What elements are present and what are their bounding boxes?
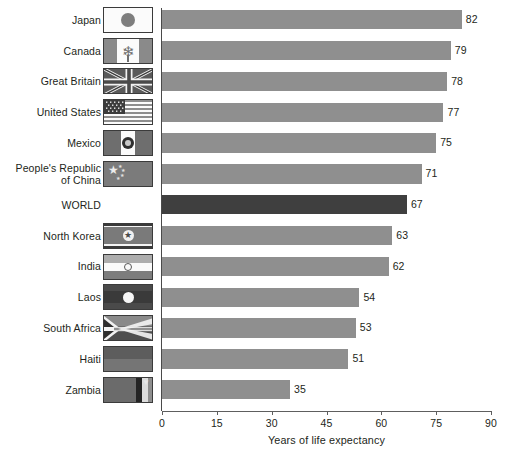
category-label: WORLD bbox=[0, 190, 101, 221]
united-states-flag bbox=[103, 99, 153, 125]
chart-row: Mexico 75 bbox=[0, 128, 508, 159]
south-africa-flag bbox=[103, 315, 153, 341]
chart-row: People's Republicof China ★ ★ ★ ★ ★71 bbox=[0, 159, 508, 190]
category-label-line: WORLD bbox=[61, 199, 101, 211]
category-label: Mexico bbox=[0, 128, 101, 159]
category-label-line: United States bbox=[37, 106, 101, 118]
bar-value-label: 63 bbox=[396, 226, 408, 245]
chart-row: South Africa 53 bbox=[0, 313, 508, 344]
category-label: North Korea bbox=[0, 220, 101, 251]
x-axis-tick-label: 0 bbox=[142, 417, 182, 430]
category-label-line: Japan bbox=[72, 14, 101, 26]
category-label-line: Zambia bbox=[65, 384, 101, 396]
japan-sun bbox=[121, 13, 135, 27]
bar-value-label: 53 bbox=[360, 318, 372, 337]
japan-flag bbox=[103, 7, 153, 33]
category-label-line: South Africa bbox=[43, 322, 101, 334]
mexico-flag bbox=[103, 130, 153, 156]
category-label: South Africa bbox=[0, 313, 101, 344]
bar-value-label: 77 bbox=[447, 103, 459, 122]
zambia-eagle: ▼ bbox=[142, 379, 150, 387]
category-label-line: Mexico bbox=[67, 137, 101, 149]
category-label-line: North Korea bbox=[43, 230, 101, 242]
category-label: Canada bbox=[0, 35, 101, 66]
great-britain-flag bbox=[103, 68, 153, 94]
india-ashoka-chakra bbox=[124, 263, 132, 271]
zambia-flag: ▼ bbox=[103, 377, 153, 403]
chart-row: WORLD67 bbox=[0, 190, 508, 221]
x-axis-tick bbox=[381, 411, 382, 415]
bar bbox=[162, 380, 290, 399]
chart-row: Great Britain 78 bbox=[0, 66, 508, 97]
chart-row: United States bbox=[0, 97, 508, 128]
bar bbox=[162, 41, 451, 60]
haiti-flag bbox=[103, 346, 153, 372]
bar bbox=[162, 195, 407, 214]
x-axis-tick-label: 60 bbox=[361, 417, 401, 430]
chart-row: Japan 82 bbox=[0, 4, 508, 35]
bar-value-label: 62 bbox=[393, 257, 405, 276]
x-axis-tick-label: 15 bbox=[197, 417, 237, 430]
x-axis-tick bbox=[272, 411, 273, 415]
x-axis-tick bbox=[436, 411, 437, 415]
bar bbox=[162, 257, 389, 276]
chart-row: Zambia ▼35 bbox=[0, 375, 508, 406]
x-axis-tick-label: 30 bbox=[252, 417, 292, 430]
category-label: Great Britain bbox=[0, 66, 101, 97]
bar bbox=[162, 133, 436, 152]
bar bbox=[162, 318, 356, 337]
x-axis-tick bbox=[217, 411, 218, 415]
chart-row: North Korea ★63 bbox=[0, 220, 508, 251]
china-flag: ★ ★ ★ ★ ★ bbox=[103, 161, 153, 187]
bar-value-label: 78 bbox=[451, 72, 463, 91]
bar-value-label: 54 bbox=[363, 288, 375, 307]
india-flag bbox=[103, 254, 153, 280]
bar-value-label: 71 bbox=[426, 164, 438, 183]
category-label-line: Canada bbox=[64, 45, 101, 57]
category-label: India bbox=[0, 251, 101, 282]
bar bbox=[162, 72, 447, 91]
laos-disc bbox=[123, 292, 134, 303]
category-label: Zambia bbox=[0, 375, 101, 406]
x-axis-tick bbox=[327, 411, 328, 415]
category-label-line: Haiti bbox=[79, 353, 101, 365]
category-label: Laos bbox=[0, 282, 101, 313]
bar-value-label: 35 bbox=[294, 380, 306, 399]
category-label: Japan bbox=[0, 4, 101, 35]
category-label-line: of China bbox=[61, 174, 101, 186]
category-label: Haiti bbox=[0, 344, 101, 375]
bar bbox=[162, 10, 462, 29]
x-axis-title: Years of life expectancy bbox=[162, 434, 491, 446]
bar-value-label: 79 bbox=[455, 41, 467, 60]
bar-value-label: 51 bbox=[352, 349, 364, 368]
canada-flag: ❄ bbox=[103, 38, 153, 64]
chart-row: Canada ❄ 79 bbox=[0, 35, 508, 66]
category-label-line: Great Britain bbox=[41, 75, 101, 87]
category-label-line: Laos bbox=[78, 291, 101, 303]
x-axis-tick-label: 45 bbox=[307, 417, 347, 430]
life-expectancy-bar-chart: Japan 82Canada ❄ 79Great Britain 78Unite… bbox=[0, 0, 508, 458]
bar-value-label: 75 bbox=[440, 133, 452, 152]
x-axis-tick-label: 90 bbox=[471, 417, 508, 430]
x-axis-tick bbox=[162, 411, 163, 415]
category-label: People's Republicof China bbox=[0, 159, 101, 190]
x-axis-line bbox=[162, 411, 491, 412]
chart-row: Haiti 51 bbox=[0, 344, 508, 375]
category-label-line: India bbox=[78, 260, 101, 272]
category-label: United States bbox=[0, 97, 101, 128]
x-axis-tick-label: 75 bbox=[416, 417, 456, 430]
bar-value-label: 82 bbox=[466, 10, 478, 29]
laos-flag bbox=[103, 284, 153, 310]
bar bbox=[162, 103, 443, 122]
bar bbox=[162, 164, 422, 183]
bar-value-label: 67 bbox=[411, 195, 423, 214]
chart-row: India 62 bbox=[0, 251, 508, 282]
bar bbox=[162, 288, 359, 307]
category-label-line: People's Republic bbox=[16, 162, 101, 174]
x-axis-tick bbox=[491, 411, 492, 415]
bar bbox=[162, 349, 348, 368]
bar bbox=[162, 226, 392, 245]
north-korea-flag: ★ bbox=[103, 223, 153, 249]
chart-row: Laos 54 bbox=[0, 282, 508, 313]
